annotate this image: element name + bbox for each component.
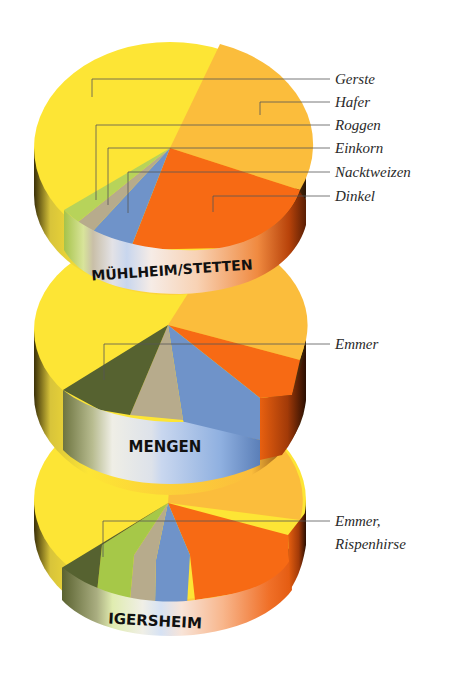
site-label-mengen: MENGEN — [129, 438, 202, 456]
legend-emmer-rispenhirse-line2: Rispenhirse — [335, 535, 406, 553]
legend-emmer-rispenhirse-line1: Emmer, — [335, 512, 380, 530]
legend-hafer: Hafer — [335, 93, 370, 111]
legend-nacktweizen: Nacktweizen — [335, 163, 411, 181]
legend-einkorn: Einkorn — [335, 139, 383, 157]
legend-gerste: Gerste — [335, 70, 375, 88]
legend-dinkel: Dinkel — [335, 187, 375, 205]
stacked-pie-chart: IGERSHEIM MENGEN MÜHLHEIM/STETTEN — [0, 0, 463, 679]
pie-muehlheim-stetten: MÜHLHEIM/STETTEN — [34, 42, 313, 295]
legend-roggen: Roggen — [335, 116, 381, 134]
legend-emmer: Emmer — [335, 335, 378, 353]
